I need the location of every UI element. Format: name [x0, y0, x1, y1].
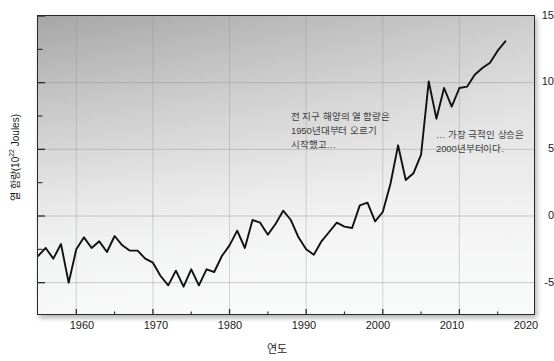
plot-area: 전 지구 해양의 열 함량은 1950년대부터 오르기 시작했고… … 가장 극… — [37, 15, 535, 315]
axis-ticks — [38, 16, 535, 315]
gridlines — [38, 16, 535, 315]
ocean-heat-content-chart: 15 10 5 0 -5 열 함량(1022 Joules) 전 지구 해양의 … — [0, 0, 554, 361]
data-series-line — [38, 41, 505, 286]
x-axis-title: 연도 — [0, 340, 554, 356]
x-tick-label-2000: 2000 — [355, 320, 401, 331]
annotation-early-rise: 전 지구 해양의 열 함량은 1950년대부터 오르기 시작했고… — [291, 110, 390, 151]
y-axis-title: 열 함량(1022 Joules) — [7, 93, 22, 223]
x-tick-label-1960: 1960 — [59, 320, 105, 331]
y-axis-title-tail: Joules) — [10, 114, 21, 149]
x-tick-label-1980: 1980 — [207, 320, 253, 331]
y-axis-title-main: 열 함량(10 — [10, 157, 21, 201]
x-tick-label-2010: 2010 — [429, 320, 475, 331]
x-tick-label-1970: 1970 — [133, 320, 179, 331]
x-tick-label-1990: 1990 — [281, 320, 327, 331]
annotation-recent-rise: … 가장 극적인 상승은 2000년부터이다. — [436, 128, 524, 156]
y-axis-title-exponent: 22 — [8, 149, 15, 157]
plot-svg — [38, 16, 535, 315]
x-tick-label-2020: 2020 — [503, 320, 549, 331]
